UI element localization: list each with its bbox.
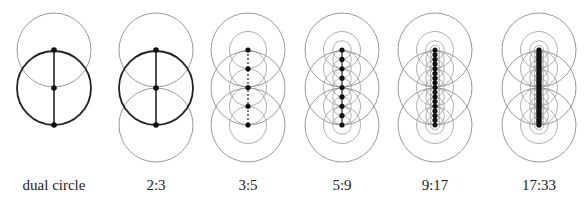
vertex-dot xyxy=(51,85,57,91)
vertex-dot xyxy=(339,57,344,62)
vertex-dot xyxy=(433,108,438,113)
dual-circle-subdivision-diagram xyxy=(0,0,587,203)
vertex-dot xyxy=(339,113,344,118)
vertex-dot xyxy=(339,104,344,109)
vertex-dot xyxy=(433,118,438,123)
vertex-dot xyxy=(51,47,57,53)
panel-label: 3:5 xyxy=(238,177,257,194)
vertex-dot xyxy=(339,122,344,127)
vertex-dot xyxy=(245,66,250,71)
vertex-dot xyxy=(51,122,57,128)
vertex-dot xyxy=(433,90,438,95)
vertex-dot xyxy=(433,104,438,109)
panel-label: dual circle xyxy=(23,177,86,194)
panel-label: 17:33 xyxy=(522,177,556,194)
panel-dual xyxy=(17,13,91,128)
vertex-dot xyxy=(433,66,438,71)
panel-9-17 xyxy=(398,13,472,162)
vertex-dot xyxy=(245,104,250,109)
panel-label: 5:9 xyxy=(332,177,351,194)
vertex-dot xyxy=(536,122,541,127)
vertex-dot xyxy=(433,85,438,90)
vertex-dot xyxy=(433,52,438,57)
vertex-dot xyxy=(153,47,159,53)
panel-label: 9:17 xyxy=(422,177,449,194)
vertex-dot xyxy=(339,85,344,90)
vertex-dot xyxy=(433,113,438,118)
vertex-dot xyxy=(433,48,438,53)
panel-5-9 xyxy=(305,13,379,162)
panel-2-3 xyxy=(119,13,193,162)
vertex-dot xyxy=(433,99,438,104)
vertex-dot xyxy=(433,80,438,85)
vertex-dot xyxy=(339,94,344,99)
panel-3-5 xyxy=(211,13,285,162)
vertex-dot xyxy=(245,85,250,90)
panel-17-33 xyxy=(502,13,576,162)
vertex-dot xyxy=(433,94,438,99)
vertex-dot xyxy=(433,57,438,62)
vertex-dot xyxy=(339,47,344,52)
vertex-dot xyxy=(153,122,159,128)
vertex-dot xyxy=(339,66,344,71)
vertex-dot xyxy=(433,76,438,81)
vertex-dot xyxy=(245,47,250,52)
vertex-dot xyxy=(339,76,344,81)
vertex-dot xyxy=(433,71,438,76)
vertex-dot xyxy=(245,122,250,127)
panel-label: 2:3 xyxy=(146,177,165,194)
vertex-dot xyxy=(433,123,438,128)
vertex-dot xyxy=(153,85,159,91)
vertex-dot xyxy=(433,62,438,67)
